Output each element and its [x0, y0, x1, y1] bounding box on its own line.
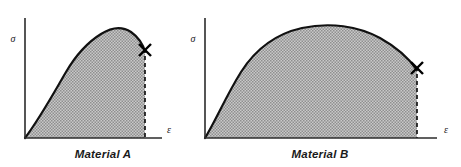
stress-strain-figure: σ ε Material A σ ε Material B	[0, 0, 461, 167]
caption-material-b: Material B	[292, 148, 349, 160]
x-axis-label-material-b: ε	[444, 124, 448, 135]
area-fill-material-a	[25, 28, 145, 138]
x-axis-label-material-a: ε	[167, 124, 171, 135]
panel-material-a: σ ε Material A	[11, 18, 171, 160]
caption-material-a: Material A	[75, 148, 132, 160]
y-axis-label-material-a: σ	[11, 33, 17, 44]
y-axis-label-material-b: σ	[191, 33, 197, 44]
panel-material-b: σ ε Material B	[191, 18, 448, 160]
